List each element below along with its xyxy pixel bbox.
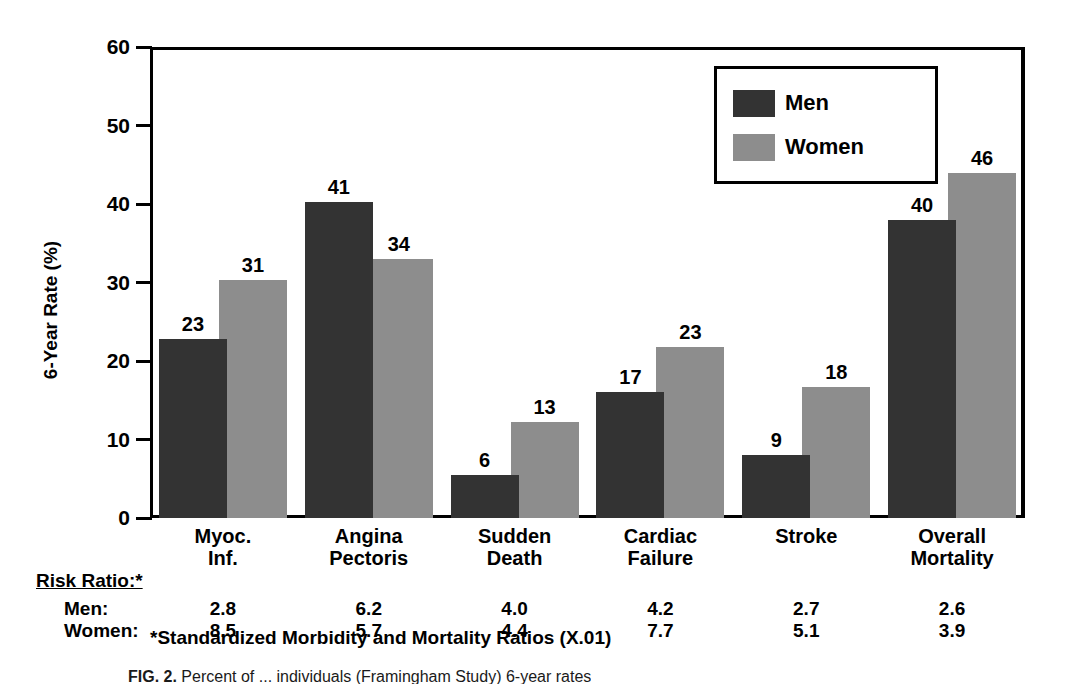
bar-value-label: 13: [515, 397, 575, 417]
y-axis-tick-label: 60: [86, 36, 130, 57]
risk-ratio-value: 4.0: [475, 598, 555, 620]
bar-women: [365, 259, 433, 518]
bar-value-label: 18: [806, 362, 866, 382]
legend-item-men: Men: [733, 81, 935, 125]
figure-caption-text: Percent of ... individuals (Framingham S…: [181, 668, 591, 684]
legend-swatch-women-icon: [733, 134, 775, 161]
bar-women: [656, 347, 724, 518]
bar-value-label: 41: [309, 177, 369, 197]
legend-label-men: Men: [785, 92, 829, 114]
risk-ratio-row-label-men: Men:: [64, 598, 108, 620]
bar-value-label: 31: [223, 255, 283, 275]
legend-label-women: Women: [785, 136, 864, 158]
bar-value-label: 9: [746, 430, 806, 450]
bar-women: [948, 173, 1016, 518]
risk-ratio-value: 7.7: [620, 620, 700, 642]
bar-value-label: 34: [369, 234, 429, 254]
bar-men: [451, 475, 519, 518]
risk-ratio-value: 3.9: [912, 620, 992, 642]
y-axis-tick-label: 20: [86, 350, 130, 371]
bar-women: [219, 280, 287, 518]
risk-ratio-value: 2.8: [183, 598, 263, 620]
y-axis-tick-label: 0: [86, 507, 130, 528]
bar-men: [159, 339, 227, 518]
risk-ratio-value: 2.7: [766, 598, 846, 620]
y-axis-tick-label: 10: [86, 429, 130, 450]
risk-ratio-title: Risk Ratio:*: [36, 570, 143, 592]
bar-value-label: 40: [892, 195, 952, 215]
legend-swatch-men-icon: [733, 90, 775, 117]
risk-ratio-row-label-women: Women:: [64, 620, 139, 642]
bar-women: [802, 387, 870, 518]
risk-ratio-value: 2.6: [912, 598, 992, 620]
legend: Men Women: [714, 66, 938, 184]
figure-bar-chart: 6-Year Rate (%) 0102030405060 2331413461…: [0, 0, 1073, 684]
bar-value-label: 17: [600, 367, 660, 387]
bar-value-label: 23: [660, 322, 720, 342]
risk-ratio-value: 4.2: [620, 598, 700, 620]
x-axis-label: Overall Mortality: [862, 526, 1042, 569]
bar-value-label: 23: [163, 314, 223, 334]
bar-men: [742, 455, 810, 518]
bar-men: [305, 202, 373, 518]
y-axis-tick-label: 30: [86, 272, 130, 293]
bar-men: [596, 392, 664, 518]
bar-women: [511, 422, 579, 518]
bar-men: [888, 220, 956, 518]
figure-caption-number: FIG. 2.: [128, 668, 177, 684]
risk-ratio-value: 5.1: [766, 620, 846, 642]
risk-ratio-value: 6.2: [329, 598, 409, 620]
figure-caption: FIG. 2. Percent of ... individuals (Fram…: [128, 668, 591, 684]
footnote: *Standardized Morbidity and Mortality Ra…: [150, 627, 611, 649]
legend-item-women: Women: [733, 125, 935, 169]
y-axis-title: 6-Year Rate (%): [40, 140, 62, 480]
y-axis-tick-label: 50: [86, 115, 130, 136]
y-axis-tick-label: 40: [86, 193, 130, 214]
bar-value-label: 6: [455, 450, 515, 470]
bar-value-label: 46: [952, 148, 1012, 168]
